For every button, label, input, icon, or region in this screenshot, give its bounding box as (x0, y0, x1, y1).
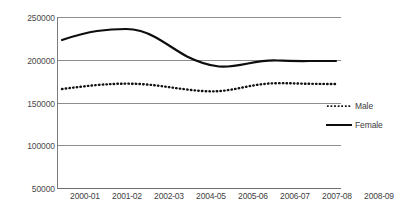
line-series-male (62, 83, 336, 91)
legend-label: Male (355, 101, 373, 111)
x-tick-label: 2005-06 (238, 191, 268, 201)
legend-item-male: Male (326, 96, 404, 115)
dotted-line-swatch-icon (326, 101, 352, 111)
x-tick-label: 2007-08 (322, 191, 352, 201)
legend-label: Female (355, 120, 383, 130)
chart-legend: Male Female (326, 96, 404, 134)
solid-line-swatch-icon (326, 120, 352, 130)
line-chart: 250000 200000 150000 100000 50000 2000-0… (0, 0, 404, 218)
x-tick-label: 2008-09 (364, 191, 394, 201)
legend-item-female: Female (326, 115, 404, 134)
x-axis-tick-labels: 2000-01 2001-02 2002-03 2004-05 2005-06 … (57, 191, 341, 209)
x-tick-label: 2002-03 (154, 191, 184, 201)
line-series-female (62, 29, 336, 67)
x-tick-label: 2004-05 (196, 191, 226, 201)
x-tick-label: 2001-02 (112, 191, 142, 201)
x-tick-label: 2000-01 (70, 191, 100, 201)
x-tick-label: 2006-07 (280, 191, 310, 201)
